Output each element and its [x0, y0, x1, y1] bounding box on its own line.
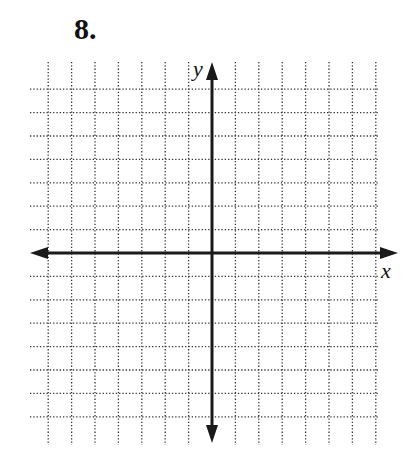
arrow-left-icon: [30, 247, 48, 259]
arrow-up-icon: [206, 62, 218, 80]
x-axis-label: x: [381, 258, 391, 284]
coordinate-plane: [0, 0, 420, 473]
axes: [30, 62, 398, 443]
arrow-down-icon: [206, 425, 218, 443]
y-axis-label: y: [193, 56, 203, 82]
